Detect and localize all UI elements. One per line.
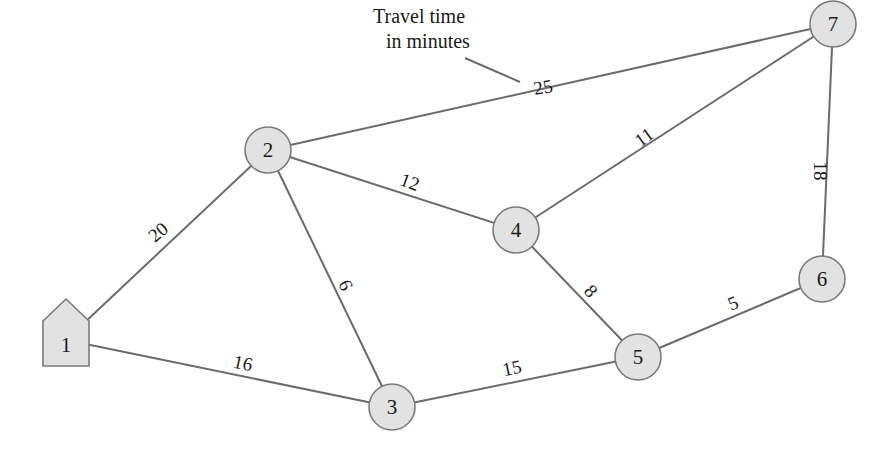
edge-7-6 bbox=[822, 24, 833, 279]
network-diagram: 20166122511815518 1234567 Travel time in… bbox=[0, 0, 893, 450]
edges-layer bbox=[66, 24, 833, 407]
edge-labels-layer: 20166122511815518 bbox=[144, 75, 831, 380]
annotation-pointer-line bbox=[465, 58, 520, 82]
node-1: 1 bbox=[43, 299, 89, 366]
node-label: 1 bbox=[61, 333, 72, 357]
edge-weight-1-2: 20 bbox=[144, 218, 172, 246]
edge-weight-2-7: 25 bbox=[532, 75, 554, 99]
node-5: 5 bbox=[615, 334, 661, 380]
edge-2-4 bbox=[268, 150, 516, 230]
annotation-callout: Travel time in minutes bbox=[373, 5, 520, 82]
node-label: 3 bbox=[387, 395, 398, 419]
node-2: 2 bbox=[245, 127, 291, 173]
node-6: 6 bbox=[799, 256, 845, 302]
annotation-line-2: in minutes bbox=[386, 30, 470, 52]
graph-canvas: 20166122511815518 1234567 Travel time in… bbox=[0, 0, 893, 450]
edge-weight-1-3: 16 bbox=[232, 351, 255, 375]
edge-1-3 bbox=[66, 340, 392, 407]
edge-weight-4-7: 11 bbox=[630, 123, 657, 151]
edge-weight-5-6: 5 bbox=[725, 291, 742, 314]
edge-4-5 bbox=[516, 230, 638, 357]
node-7: 7 bbox=[810, 1, 856, 47]
edge-4-7 bbox=[516, 24, 833, 230]
edge-weight-3-5: 15 bbox=[501, 356, 524, 380]
edge-5-6 bbox=[638, 279, 822, 357]
nodes-layer: 1234567 bbox=[43, 1, 856, 430]
node-label: 2 bbox=[263, 138, 274, 162]
edge-weight-4-5: 8 bbox=[580, 280, 602, 301]
edge-1-2 bbox=[66, 150, 268, 340]
edge-weight-2-4: 12 bbox=[397, 169, 422, 195]
edge-2-3 bbox=[268, 150, 392, 407]
node-4: 4 bbox=[493, 207, 539, 253]
node-label: 6 bbox=[817, 267, 828, 291]
node-label: 5 bbox=[633, 345, 644, 369]
node-label: 4 bbox=[511, 218, 522, 242]
edge-weight-7-6: 18 bbox=[810, 162, 831, 181]
node-3: 3 bbox=[369, 384, 415, 430]
annotation-line-1: Travel time bbox=[373, 5, 465, 27]
node-label: 7 bbox=[828, 12, 839, 36]
edge-weight-2-3: 6 bbox=[334, 276, 357, 293]
